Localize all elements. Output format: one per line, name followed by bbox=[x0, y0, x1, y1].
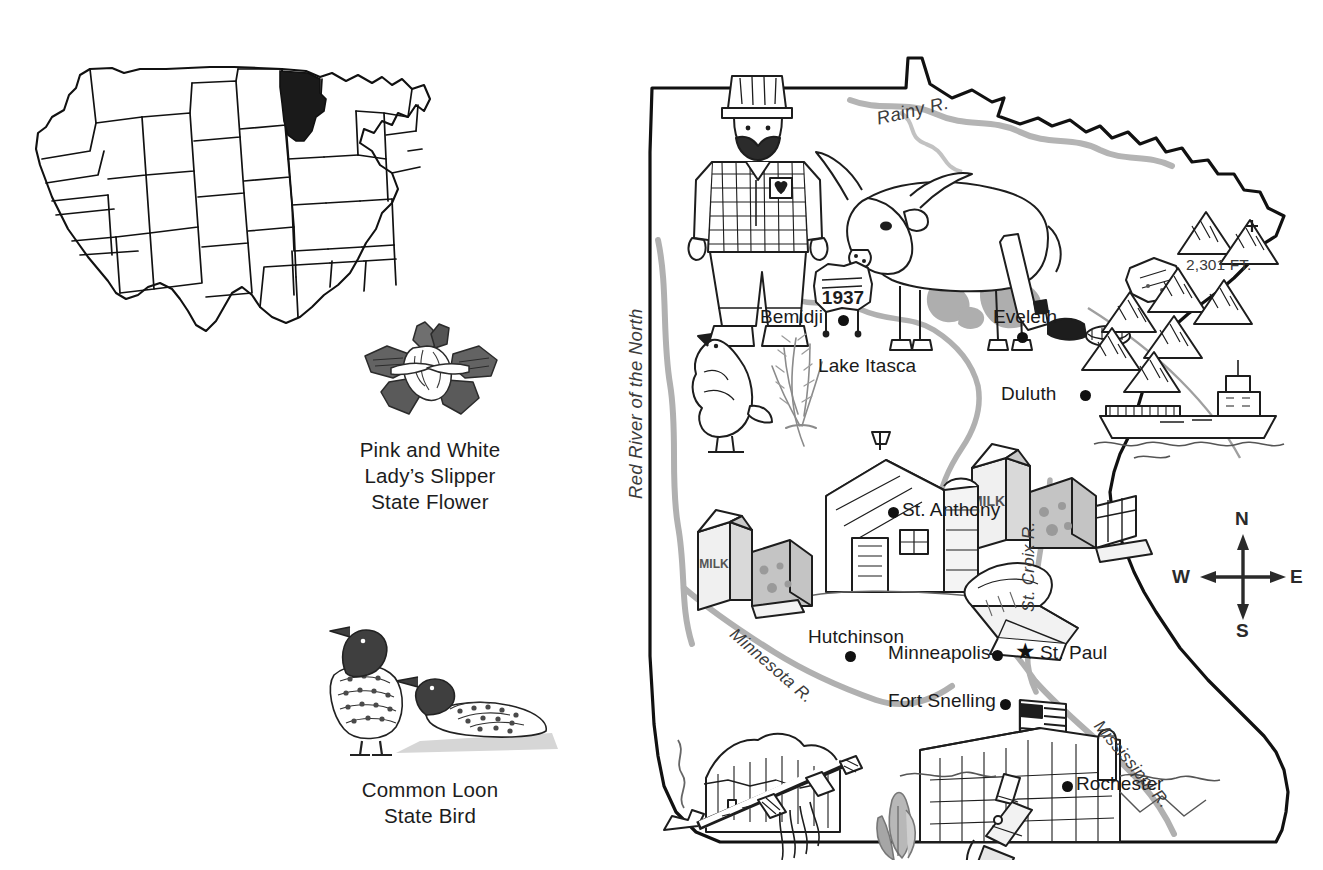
capital-marker-st-paul: ★ bbox=[1015, 640, 1036, 663]
city-marker-fort-snelling bbox=[1000, 699, 1011, 710]
poster-canvas: Pink and White Lady’s Slipper State Flow… bbox=[0, 0, 1323, 870]
city-label-minneapolis[interactable]: Minneapolis bbox=[888, 642, 991, 664]
compass-label-south: S bbox=[1236, 620, 1249, 642]
flower-caption-line-1: Pink and White bbox=[250, 437, 610, 463]
minnesota-state-map: 1937 bbox=[600, 40, 1310, 860]
city-marker-eveleth bbox=[1017, 332, 1028, 343]
common-loon-icon bbox=[300, 615, 560, 765]
compass-label-north: N bbox=[1235, 508, 1249, 530]
city-label-st-paul[interactable]: St. Paul bbox=[1040, 642, 1107, 664]
city-label-bemidji[interactable]: Bemidji bbox=[760, 306, 823, 328]
river-label-st-croix[interactable]: St. Croix R. bbox=[1019, 521, 1039, 612]
bird-caption-line-2: State Bird bbox=[250, 803, 610, 829]
city-marker-hutchinson bbox=[845, 651, 856, 662]
flower-caption-line-2: Lady’s Slipper bbox=[250, 463, 610, 489]
state-flower-block: Pink and White Lady’s Slipper State Flow… bbox=[250, 320, 610, 515]
svg-text:MILK: MILK bbox=[699, 557, 729, 571]
flower-caption-line-3: State Flower bbox=[250, 489, 610, 515]
city-marker-minneapolis bbox=[992, 650, 1003, 661]
city-label-duluth[interactable]: Duluth bbox=[1001, 383, 1057, 405]
bird-caption-line-1: Common Loon bbox=[250, 777, 610, 803]
feature-label-lake-itasca[interactable]: Lake Itasca bbox=[818, 355, 916, 377]
city-marker-bemidji bbox=[838, 315, 849, 326]
city-label-eveleth[interactable]: Eveleth bbox=[993, 306, 1057, 328]
state-flower-caption: Pink and White Lady’s Slipper State Flow… bbox=[250, 437, 610, 515]
city-marker-rochester bbox=[1062, 781, 1073, 792]
united-states-inset-map bbox=[20, 55, 440, 365]
compass-label-west: W bbox=[1172, 566, 1190, 588]
feature-label-elevation: 2,301 FT. bbox=[1186, 256, 1252, 274]
ladys-slipper-flower-icon bbox=[355, 320, 505, 425]
state-bird-block: Common Loon State Bird bbox=[250, 615, 610, 829]
city-label-st-anthony[interactable]: St. Anthony bbox=[902, 499, 1000, 521]
city-label-fort-snelling[interactable]: Fort Snelling bbox=[888, 690, 996, 712]
river-label-red-river-of-the-north[interactable]: Red River of the North bbox=[625, 308, 647, 499]
compass-label-east: E bbox=[1290, 566, 1303, 588]
state-bird-caption: Common Loon State Bird bbox=[250, 777, 610, 829]
compass-rose: N S E W bbox=[1178, 512, 1308, 642]
bunyan-sign-year-text: 1937 bbox=[822, 287, 864, 308]
minnesota-map-artwork: 1937 bbox=[600, 40, 1310, 860]
city-marker-duluth bbox=[1080, 390, 1091, 401]
city-marker-st-anthony bbox=[888, 507, 899, 518]
